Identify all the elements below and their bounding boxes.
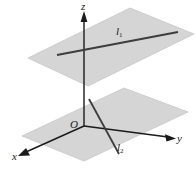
line-l1-label: l1 (116, 26, 123, 37)
coordinate-system-figure (0, 0, 196, 169)
y-axis-arrowhead (165, 134, 176, 141)
z-axis-arrowhead (81, 11, 88, 22)
origin-label: O (70, 119, 78, 130)
y-axis-label: y (177, 133, 182, 144)
figure-container: z x y O l1 l2 (0, 0, 196, 169)
upper-plane-shape (28, 8, 194, 86)
line-l2-label: l2 (117, 142, 124, 153)
line-l2-label-subscript: 2 (120, 147, 124, 155)
x-axis-label: x (12, 151, 17, 162)
z-axis-label: z (81, 1, 85, 12)
line-l1-label-subscript: 1 (119, 31, 123, 39)
x-axis-arrowhead (18, 148, 30, 156)
lower-plane-shape (22, 88, 188, 161)
